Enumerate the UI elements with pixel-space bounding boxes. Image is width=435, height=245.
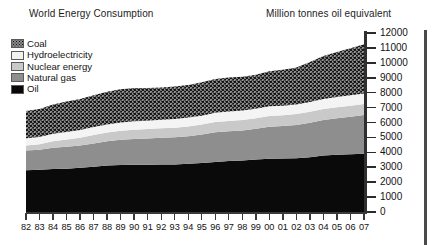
hydro-swatch <box>11 51 24 60</box>
x-tick-label: 88 <box>102 223 112 232</box>
x-tick-mark <box>350 213 351 220</box>
y-tick-label: 4000 <box>380 147 402 157</box>
y-tick-label: 5000 <box>380 132 402 142</box>
x-tick-mark <box>120 213 121 220</box>
x-tick-label: 84 <box>48 223 58 232</box>
x-tick-mark <box>161 213 162 220</box>
x-tick-mark <box>363 213 364 220</box>
x-tick-mark <box>215 213 216 220</box>
x-tick-label: 06 <box>345 223 355 232</box>
x-tick-mark <box>242 213 243 220</box>
gas-swatch <box>11 73 24 82</box>
y-tick-mark <box>367 211 376 213</box>
x-tick-label: 01 <box>278 223 288 232</box>
y-tick-mark <box>367 62 376 64</box>
y-tick-label: 0 <box>380 207 386 217</box>
y-tick-mark <box>367 77 376 79</box>
x-tick-label: 93 <box>170 223 180 232</box>
y-tick-mark <box>367 196 376 198</box>
x-tick-mark <box>323 213 324 220</box>
y-tick-mark <box>367 152 376 154</box>
y-tick-mark <box>367 47 376 49</box>
x-tick-mark <box>66 213 67 220</box>
x-tick-label: 05 <box>332 223 342 232</box>
y-tick-mark <box>367 181 376 183</box>
x-tick-mark <box>52 213 53 220</box>
y-tick-label: 9000 <box>380 73 402 83</box>
y-tick-label: 12000 <box>380 28 408 38</box>
x-tick-label: 91 <box>143 223 153 232</box>
x-tick-mark <box>188 213 189 220</box>
x-tick-label: 96 <box>210 223 220 232</box>
nuclear-swatch <box>11 62 24 71</box>
x-tick-label: 86 <box>75 223 85 232</box>
x-tick-mark <box>336 213 337 220</box>
x-tick-label: 98 <box>237 223 247 232</box>
x-tick-label: 90 <box>129 223 139 232</box>
y-tick-label: 3000 <box>380 162 402 172</box>
x-tick-mark <box>93 213 94 220</box>
x-tick-mark <box>147 213 148 220</box>
x-tick-label: 92 <box>156 223 166 232</box>
stacked-area-series <box>26 33 364 212</box>
x-tick-mark <box>228 213 229 220</box>
y-tick-mark <box>367 32 376 34</box>
chart-figure: World Energy Consumption Million tonnes … <box>0 0 435 245</box>
x-tick-mark <box>174 213 175 220</box>
x-tick-label: 87 <box>88 223 98 232</box>
x-tick-mark <box>255 213 256 220</box>
x-tick-mark <box>201 213 202 220</box>
x-tick-mark <box>25 213 26 220</box>
x-tick-mark <box>39 213 40 220</box>
x-tick-label: 82 <box>21 223 31 232</box>
y-tick-label: 10000 <box>380 58 408 68</box>
y-tick-mark <box>367 107 376 109</box>
x-tick-mark <box>296 213 297 220</box>
y-tick-label: 1000 <box>380 192 402 202</box>
x-tick-mark <box>282 213 283 220</box>
coal-swatch <box>11 39 24 48</box>
y-tick-label: 2000 <box>380 177 402 187</box>
x-tick-label: 03 <box>305 223 315 232</box>
x-tick-label: 97 <box>224 223 234 232</box>
x-axis-line <box>26 212 367 214</box>
y-tick-mark <box>367 122 376 124</box>
right-border-rule <box>424 30 427 245</box>
y-tick-label: 8000 <box>380 88 402 98</box>
x-tick-mark <box>133 213 134 220</box>
x-tick-label: 02 <box>291 223 301 232</box>
x-tick-label: 89 <box>116 223 126 232</box>
y-tick-mark <box>367 92 376 94</box>
y-tick-label: 11000 <box>380 43 407 53</box>
y-tick-mark <box>367 137 376 139</box>
x-tick-label: 94 <box>183 223 193 232</box>
y-axis-unit-label: Million tonnes oil equivalent <box>266 8 391 19</box>
x-tick-label: 00 <box>264 223 274 232</box>
x-tick-label: 95 <box>197 223 207 232</box>
y-tick-label: 6000 <box>380 118 402 128</box>
y-tick-label: 7000 <box>380 103 402 113</box>
plot-area <box>26 33 364 212</box>
chart-title: World Energy Consumption <box>29 8 154 19</box>
x-tick-label: 85 <box>61 223 71 232</box>
x-tick-mark <box>79 213 80 220</box>
x-tick-mark <box>106 213 107 220</box>
x-tick-label: 99 <box>251 223 261 232</box>
x-tick-label: 07 <box>359 223 369 232</box>
x-tick-mark <box>309 213 310 220</box>
y-tick-mark <box>367 166 376 168</box>
x-tick-mark <box>269 213 270 220</box>
oil-swatch <box>11 85 24 94</box>
x-tick-label: 83 <box>34 223 44 232</box>
x-tick-label: 04 <box>318 223 328 232</box>
